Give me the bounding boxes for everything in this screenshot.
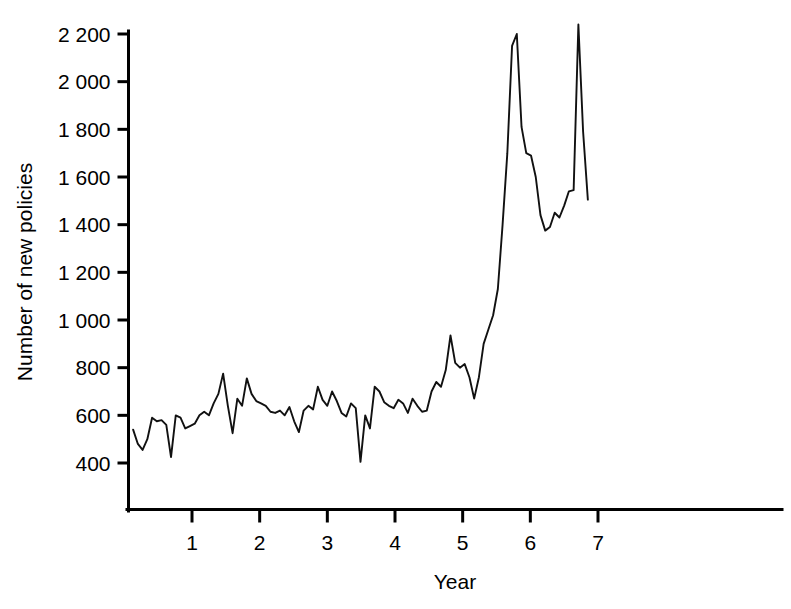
y-tick-label: 400 [75,452,110,475]
x-tick-label: 5 [457,531,469,554]
y-axis-title: Number of new policies [13,163,36,381]
y-tick-label: 600 [75,404,110,427]
x-tick-label: 1 [186,531,198,554]
y-tick-label: 1 400 [58,213,111,236]
y-tick-label: 1 600 [58,166,111,189]
chart-container: Number of new policies 4006008001 0001 2… [0,0,791,609]
line-chart: Number of new policies 4006008001 0001 2… [0,0,791,609]
y-tick-label: 1 000 [58,309,111,332]
y-tick-label: 800 [75,356,110,379]
y-tick-label: 2 000 [58,70,111,93]
data-series-line [133,24,588,461]
y-tick-label: 1 800 [58,118,111,141]
x-tick-label: 2 [254,531,266,554]
x-axis-title: Year [434,570,476,593]
y-axis-ticks: 4006008001 0001 2001 4001 6001 8002 0002… [58,23,129,475]
x-axis-ticks: 1234567 [186,510,604,554]
x-tick-label: 4 [389,531,401,554]
x-tick-label: 3 [321,531,333,554]
y-tick-label: 1 200 [58,261,111,284]
y-tick-label: 2 200 [58,23,111,46]
x-tick-label: 7 [592,531,604,554]
x-tick-label: 6 [524,531,536,554]
